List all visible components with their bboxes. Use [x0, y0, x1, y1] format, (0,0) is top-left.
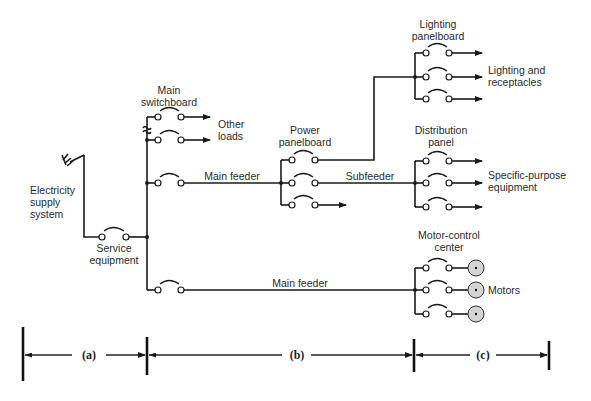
power-panel-breaker-1	[281, 77, 415, 163]
section-c-label: (c)	[476, 348, 489, 362]
lighting-panelboard-label-1: Lighting	[420, 18, 457, 30]
power-panelboard-label-2: panelboard	[279, 136, 332, 148]
distribution-panel-label-1: Distribution	[415, 124, 468, 136]
lighting-receptacles-label-1: Lighting and	[488, 64, 545, 76]
other-loads-label-2: loads	[218, 130, 243, 142]
electricity-supply-label-2: supply	[30, 196, 61, 208]
lighting-breaker-2	[415, 68, 482, 81]
specific-purpose-label-1: Specific-purpose	[488, 169, 566, 181]
switchboard-breaker-1	[147, 108, 210, 121]
electricity-supply-label-1: Electricity	[30, 184, 76, 196]
lighting-panelboard-label-2: panelboard	[412, 30, 465, 42]
section-scale-bar: (a) (b) (c)	[23, 327, 549, 381]
motor-breaker-3	[415, 305, 484, 323]
specific-purpose-label-2: equipment	[488, 181, 537, 193]
lighting-breaker-3	[415, 90, 482, 103]
service-equipment-label-1: Service	[96, 242, 131, 254]
subfeeder-label: Subfeeder	[346, 170, 395, 182]
electricity-supply-label-3: system	[30, 208, 64, 220]
power-panel-breaker-3	[281, 196, 346, 209]
distribution-diagram: Electricity supply system Service equipm…	[0, 0, 591, 401]
distribution-breaker-2	[415, 174, 482, 187]
main-feeder-upper-label: Main feeder	[204, 170, 260, 182]
other-loads-label-1: Other	[218, 118, 245, 130]
service-equipment-label-2: equipment	[89, 254, 138, 266]
junction-dot	[145, 235, 149, 239]
motor-control-label-2: center	[434, 241, 464, 253]
main-switchboard-label-1: Main	[158, 84, 181, 96]
motor-breaker-2	[415, 281, 484, 299]
section-a-label: (a)	[82, 348, 96, 362]
lighting-receptacles-label-2: receptacles	[488, 76, 542, 88]
main-switchboard-label-2: switchboard	[141, 96, 197, 108]
switchboard-breaker-2	[147, 131, 210, 144]
distribution-panel-label-2: panel	[428, 136, 454, 148]
main-feeder-lower-label: Main feeder	[272, 277, 328, 289]
distribution-breaker-3	[415, 198, 482, 211]
motor-control-label-1: Motor-control	[418, 229, 480, 241]
motor-breaker-1	[415, 259, 484, 277]
power-plug-icon	[62, 154, 84, 166]
supply-wire	[84, 155, 100, 237]
power-panelboard-label-1: Power	[290, 124, 320, 136]
distribution-breaker-1	[415, 152, 482, 165]
motors-label: Motors	[488, 284, 520, 296]
service-equipment-breaker	[99, 228, 147, 241]
section-b-label: (b)	[290, 348, 305, 362]
lighting-breaker-1	[415, 44, 482, 57]
